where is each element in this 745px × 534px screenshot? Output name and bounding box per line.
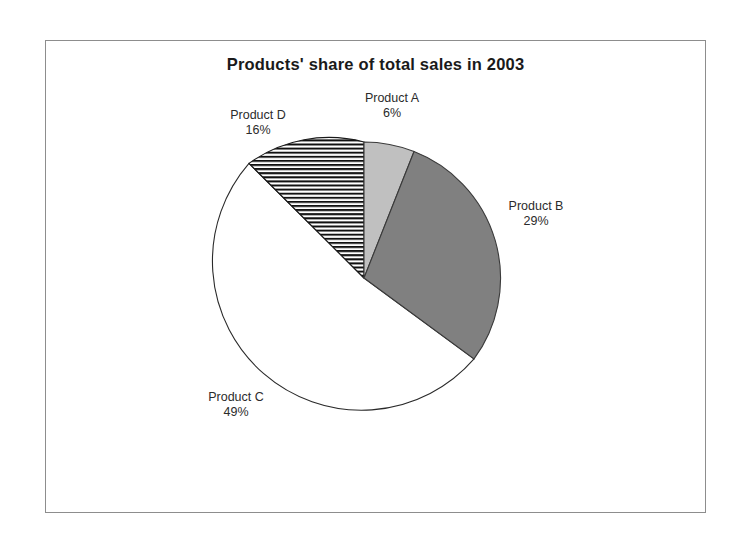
pie-label-product-c: Product C 49% [166, 390, 306, 420]
pie-chart: Product A 6% Product B 29% Product C 49%… [46, 41, 707, 514]
pie-label-product-c-value: 49% [166, 405, 306, 420]
pie-label-product-d-value: 16% [198, 123, 318, 138]
pie-label-product-c-name: Product C [166, 390, 306, 405]
pie-label-product-b-value: 29% [466, 214, 606, 229]
pie-label-product-b: Product B 29% [466, 199, 606, 229]
pie-label-product-a: Product A 6% [332, 91, 452, 121]
pie-label-product-b-name: Product B [466, 199, 606, 214]
chart-frame: Products' share of total sales in 2003 P… [45, 40, 706, 513]
pie-label-product-d: Product D 16% [198, 108, 318, 138]
pie-label-product-d-name: Product D [198, 108, 318, 123]
pie-label-product-a-value: 6% [332, 106, 452, 121]
pie-label-product-a-name: Product A [332, 91, 452, 106]
